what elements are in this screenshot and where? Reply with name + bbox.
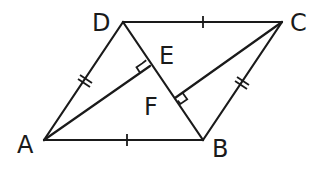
geometry-diagram: A B C D E F — [0, 0, 332, 173]
label-b: B — [212, 135, 228, 163]
segment-ae — [44, 66, 150, 140]
label-a: A — [17, 131, 34, 159]
side-da — [44, 22, 123, 140]
label-d: D — [92, 9, 110, 37]
label-e: E — [159, 42, 174, 70]
segment-cf — [175, 22, 282, 98]
diagonal-db — [123, 22, 203, 140]
label-f: F — [144, 93, 158, 121]
label-c: C — [290, 9, 307, 37]
